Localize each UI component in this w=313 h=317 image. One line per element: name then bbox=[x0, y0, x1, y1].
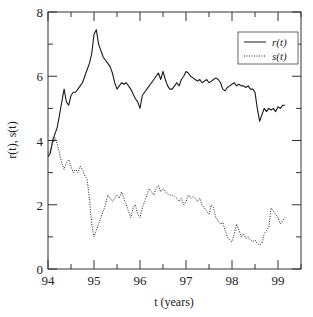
x-tick-label: 95 bbox=[88, 273, 101, 288]
legend-label-s: s(t) bbox=[272, 50, 287, 63]
x-tick-label: 98 bbox=[226, 273, 239, 288]
legend-label-r: r(t) bbox=[272, 36, 287, 49]
chart: 94959697989902468 r(t) s(t) t (years) r(… bbox=[0, 0, 313, 317]
x-axis-title: t (years) bbox=[154, 295, 194, 309]
y-tick-label: 2 bbox=[37, 198, 44, 213]
y-axis-title: r(t), s(t) bbox=[5, 121, 19, 158]
legend: r(t) s(t) bbox=[238, 32, 298, 64]
legend-box bbox=[238, 32, 298, 64]
series-line-s bbox=[48, 137, 285, 245]
y-tick-label: 6 bbox=[37, 69, 44, 84]
y-tick-label: 4 bbox=[37, 134, 44, 149]
x-tick-label: 94 bbox=[42, 273, 56, 288]
x-tick-label: 96 bbox=[134, 273, 148, 288]
y-tick-label: 8 bbox=[37, 5, 44, 20]
y-tick-label: 0 bbox=[37, 262, 44, 277]
x-tick-label: 99 bbox=[272, 273, 285, 288]
x-tick-label: 97 bbox=[180, 273, 194, 288]
